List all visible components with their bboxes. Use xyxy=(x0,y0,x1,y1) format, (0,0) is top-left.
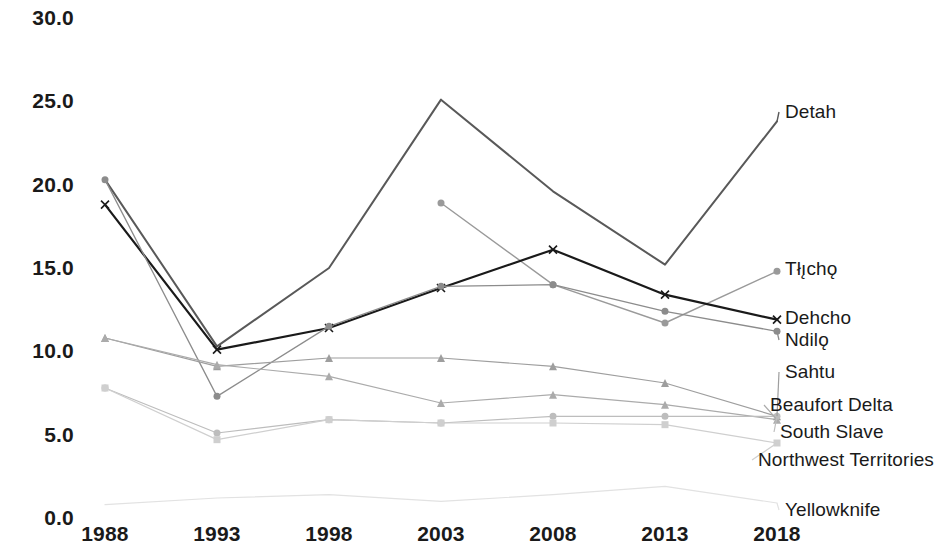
series-label-beaufort-delta: Beaufort Delta xyxy=(770,394,893,416)
x-axis-tick-label: 2013 xyxy=(641,522,689,546)
x-axis-tick-label: 1993 xyxy=(193,522,241,546)
series-label-sahtu: Sahtu xyxy=(785,361,835,383)
series-label-t-ch: Tłı̨chǫ xyxy=(785,258,837,280)
line-chart: 0.05.010.015.020.025.030.0 1988199319982… xyxy=(0,0,945,557)
series-label-south-slave: South Slave xyxy=(780,421,884,443)
series-label-detah: Detah xyxy=(785,101,836,123)
x-axis-tick-label: 2008 xyxy=(529,522,577,546)
x-axis-tick-label: 1998 xyxy=(305,522,353,546)
series-label-dehcho: Dehcho xyxy=(785,307,851,329)
x-axis-tick-label: 1988 xyxy=(81,522,129,546)
series-label-northwest-territories: Northwest Territories xyxy=(758,449,934,471)
series-label-ndil: Ndilǫ xyxy=(785,329,829,351)
x-axis-tick-label: 2003 xyxy=(417,522,465,546)
series-label-yellowknife: Yellowknife xyxy=(785,499,880,521)
x-axis-tick-label: 2018 xyxy=(753,522,801,546)
